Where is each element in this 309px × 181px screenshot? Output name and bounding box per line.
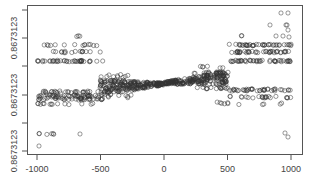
y-tick-label: 0.8673123 [9,74,19,117]
data-points [36,11,294,148]
x-tick-label: 500 [220,164,235,174]
y-tick-label: 0.8673123 [9,130,19,173]
x-tick-label: 1000 [281,164,301,174]
y-tick-label: 0.8673123 [9,17,19,60]
x-tick-label: -500 [91,164,109,174]
scatter-plot: -1000-50005001000 0.86731230.86731230.86… [0,0,309,181]
y-axis: 0.86731230.86731230.8673123 [9,10,27,172]
x-axis: -1000-50005001000 [25,155,301,174]
x-tick-label: 0 [161,164,166,174]
x-tick-label: -1000 [25,164,48,174]
